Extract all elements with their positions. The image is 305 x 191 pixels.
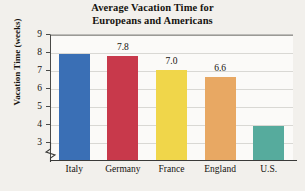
x-axis-line xyxy=(50,160,297,161)
x-axis-label: U.S. xyxy=(260,164,277,174)
bar-germany: 7.8 xyxy=(107,56,138,160)
bar-us xyxy=(253,126,284,160)
y-tick-label: 4 xyxy=(26,119,42,129)
bar-fill xyxy=(156,70,187,160)
y-tick-label: 5 xyxy=(26,101,42,111)
bar-value-label: 7.0 xyxy=(166,56,178,66)
y-tick-mark xyxy=(46,106,50,107)
y-tick-mark xyxy=(46,34,50,35)
bar-value-label: 6.6 xyxy=(214,63,226,73)
bar-fill xyxy=(253,126,284,160)
gridline xyxy=(51,35,293,36)
y-tick-mark xyxy=(46,52,50,53)
y-tick-mark xyxy=(46,70,50,71)
y-tick-label: 9 xyxy=(26,29,42,39)
axis-break-icon xyxy=(44,142,57,162)
y-axis-title: Vacation Time (weeks) xyxy=(12,2,22,122)
bar-fill xyxy=(59,54,90,160)
y-tick-label: 6 xyxy=(26,83,42,93)
bar-italy xyxy=(59,54,90,160)
chart-title: Average Vacation Time for Europeans and … xyxy=(0,2,305,27)
bar-england: 6.6 xyxy=(205,77,236,160)
bar-fill xyxy=(107,56,138,160)
x-axis-label: Italy xyxy=(66,164,83,174)
x-axis-label: England xyxy=(204,164,236,174)
bar-value-label: 7.8 xyxy=(117,42,129,52)
bar-chart: Average Vacation Time for Europeans and … xyxy=(0,0,305,191)
y-tick-mark xyxy=(46,142,50,143)
chart-title-line-1: Average Vacation Time for xyxy=(0,2,305,15)
x-axis-label: France xyxy=(159,164,185,174)
y-tick-mark xyxy=(46,88,50,89)
bar-france: 7.0 xyxy=(156,70,187,160)
y-tick-mark xyxy=(46,124,50,125)
bar-fill xyxy=(205,77,236,160)
chart-title-line-2: Europeans and Americans xyxy=(0,15,305,28)
y-tick-label: 7 xyxy=(26,65,42,75)
x-axis-label: Germany xyxy=(105,164,140,174)
y-tick-label: 3 xyxy=(26,137,42,147)
y-tick-label: 8 xyxy=(26,47,42,57)
